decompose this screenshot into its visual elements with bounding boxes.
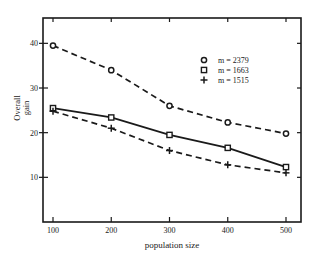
data-point-square-marker-icon bbox=[283, 164, 288, 169]
data-point-plus-marker-icon bbox=[283, 169, 290, 176]
data-series bbox=[50, 43, 290, 176]
legend-item: m = 1515 bbox=[201, 76, 249, 85]
x-tick-label: 100 bbox=[47, 226, 59, 235]
y-axis-label: Overall gain bbox=[12, 95, 31, 121]
y-tick-label: 10 bbox=[30, 173, 38, 182]
y-axis-label-line-2: gain bbox=[21, 100, 31, 115]
data-point-plus-marker-icon bbox=[166, 147, 173, 154]
x-tick-label: 300 bbox=[164, 226, 176, 235]
line-chart: 10020030040050010203040 m = 2379m = 1663… bbox=[0, 0, 320, 263]
y-tick-label: 30 bbox=[30, 84, 38, 93]
series-square bbox=[50, 106, 288, 170]
data-point-square-marker-icon bbox=[225, 145, 230, 150]
legend-item: m = 1663 bbox=[201, 66, 248, 75]
x-tick-label: 500 bbox=[280, 226, 292, 235]
legend-label: m = 2379 bbox=[218, 56, 249, 65]
data-point-square-marker-icon bbox=[109, 115, 114, 120]
data-point-circle-marker-icon bbox=[109, 68, 114, 73]
series-circle bbox=[50, 43, 288, 136]
series-line bbox=[53, 46, 286, 134]
data-point-plus-marker-icon bbox=[224, 161, 231, 168]
legend-square-marker-icon bbox=[201, 67, 206, 72]
x-axis-label: population size bbox=[145, 240, 200, 250]
series-line bbox=[53, 111, 286, 173]
legend-circle-marker-icon bbox=[201, 57, 206, 62]
legend: m = 2379m = 1663m = 1515 bbox=[201, 56, 249, 85]
y-tick-label: 20 bbox=[30, 129, 38, 138]
x-tick-label: 200 bbox=[105, 226, 117, 235]
data-point-circle-marker-icon bbox=[167, 103, 172, 108]
data-point-square-marker-icon bbox=[167, 132, 172, 137]
data-point-circle-marker-icon bbox=[50, 43, 55, 48]
data-point-circle-marker-icon bbox=[283, 131, 288, 136]
data-point-plus-marker-icon bbox=[108, 125, 115, 132]
y-tick-label: 40 bbox=[30, 39, 38, 48]
series-plus bbox=[50, 108, 290, 177]
legend-label: m = 1663 bbox=[218, 66, 249, 75]
legend-item: m = 2379 bbox=[201, 56, 248, 65]
legend-label: m = 1515 bbox=[218, 76, 249, 85]
axis-ticks: 10020030040050010203040 bbox=[30, 18, 301, 235]
data-point-circle-marker-icon bbox=[225, 120, 230, 125]
legend-plus-marker-icon bbox=[201, 77, 208, 84]
x-tick-label: 400 bbox=[222, 226, 234, 235]
